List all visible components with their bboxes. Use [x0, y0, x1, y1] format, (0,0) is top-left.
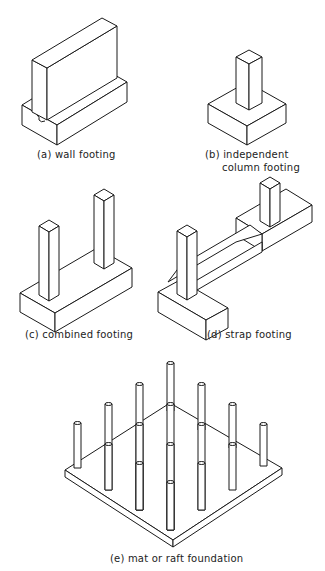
wall-footing-drawing	[22, 18, 127, 145]
caption-column-footing-line1: (b) independent	[205, 149, 289, 160]
caption-strap-footing: (d) strap footing	[207, 329, 292, 340]
foundation-diagram	[0, 0, 325, 571]
caption-combined-footing: (c) combined footing	[25, 329, 133, 340]
combined-footing-drawing	[20, 189, 132, 332]
caption-mat-foundation: (e) mat or raft foundation	[110, 553, 243, 564]
column-footing-drawing	[208, 50, 286, 145]
strap-footing-drawing	[158, 177, 312, 340]
caption-wall-footing: (a) wall footing	[37, 149, 116, 160]
caption-column-footing-line2: column footing	[222, 162, 300, 173]
mat-foundation-drawing	[65, 362, 282, 548]
